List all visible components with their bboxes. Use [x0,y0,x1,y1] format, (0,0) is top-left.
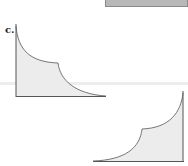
diagram-canvas [0,0,188,166]
increasing-curve-graph [93,91,184,162]
decreasing-curve-graph [16,24,106,97]
